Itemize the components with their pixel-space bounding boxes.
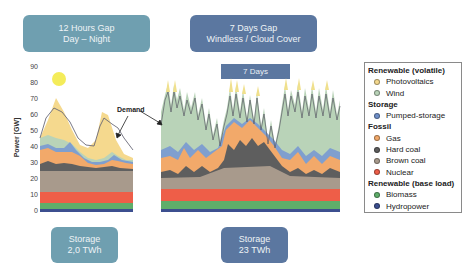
legend-label: Pumped-storage [386, 110, 445, 121]
storage-label: Storage [69, 234, 101, 245]
legend-item-brown-coal: Brown coal [368, 155, 458, 166]
storage-label: Storage [239, 234, 271, 245]
legend-label: Nuclear [386, 167, 414, 178]
nuclear-swatch-icon [374, 169, 380, 175]
hard-coal-swatch-icon [374, 147, 380, 153]
legend-group-title: Storage [368, 99, 458, 110]
storage-value: 23 TWh [239, 245, 270, 256]
legend-item-hard-coal: Hard coal [368, 144, 458, 155]
legend-item-wind: Wind [368, 88, 458, 99]
pumped-storage-swatch-icon [374, 113, 380, 119]
demand-arrows [116, 111, 162, 138]
legend-label: Photovoltaics [386, 76, 434, 87]
demand-annotation: Demand [117, 106, 145, 113]
sun-icon [52, 72, 66, 86]
legend-label: Gas [386, 133, 401, 144]
legend-label: Brown coal [386, 155, 426, 166]
legend-item-biomass: Biomass [368, 189, 458, 200]
legend-label: Hydropower [386, 201, 429, 212]
storage-value: 2,0 TWh [68, 245, 102, 256]
legend-item-pumped-storage: Pumped-storage [368, 110, 458, 121]
legend-label: Hard coal [386, 144, 420, 155]
legend-item-hydropower: Hydropower [368, 201, 458, 212]
photovoltaics-swatch-icon [374, 79, 380, 85]
legend-label: Wind [386, 88, 404, 99]
biomass-swatch-icon [374, 192, 380, 198]
legend-item-gas: Gas [368, 133, 458, 144]
right-chart [161, 78, 340, 212]
legend-item-nuclear: Nuclear [368, 167, 458, 178]
legend-label: Biomass [386, 189, 417, 200]
storage-day-night-box: Storage 2,0 TWh [51, 227, 118, 263]
legend-group-title: Renewable (volatile) [368, 65, 458, 76]
hydropower-swatch-icon [374, 203, 380, 209]
crescent-moon-icon [81, 72, 88, 86]
legend-group-title: Fossil [368, 121, 458, 132]
wind-swatch-icon [374, 90, 380, 96]
storage-seven-day-box: Storage 23 TWh [221, 227, 288, 263]
brown-coal-swatch-icon [374, 158, 380, 164]
legend-item-photovoltaics: Photovoltaics [368, 76, 458, 87]
legend: Renewable (volatile) Photovoltaics Wind … [364, 62, 462, 213]
gas-swatch-icon [374, 135, 380, 141]
legend-group-title: Renewable (base load) [368, 178, 458, 189]
left-chart [40, 98, 133, 212]
